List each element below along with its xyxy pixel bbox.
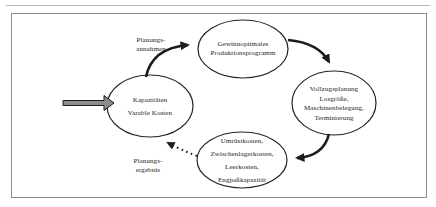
node-line: Leerkosten, xyxy=(210,161,273,174)
node-line: Maschinenbelegung, xyxy=(304,104,364,114)
node-vollzugsplanung-label: Vollzugsplanung Losgröße, Maschinenbeleg… xyxy=(304,85,364,123)
edge-label-line: Planungs- xyxy=(136,36,166,45)
edge-label-line: ergebnis xyxy=(134,166,163,175)
node-line: Produktionsprogramm xyxy=(211,49,276,58)
arrow-programm-to-vollzugsplanung xyxy=(288,40,329,62)
node-line: Kapazitäten xyxy=(128,94,172,107)
node-kosten-label: Umrüstkosten, Zwischenlagerkosten, Leerk… xyxy=(210,135,273,187)
diagram-canvas: Kapazitäten Varable Kosten Gewinnoptimal… xyxy=(0,0,436,207)
node-line: Zwischenlagerkosten, xyxy=(210,148,273,161)
node-line: Umrüstkosten, xyxy=(210,135,273,148)
node-produktionsprogramm-label: Gewinnoptimales Produktionsprogramm xyxy=(211,40,276,58)
node-line: Gewinnoptimales xyxy=(211,40,276,49)
edge-label-line: Planungs- xyxy=(134,157,163,166)
node-line: Varable Kosten xyxy=(128,107,172,120)
node-line: Terminierung xyxy=(304,114,364,124)
node-line: Vollzugsplanung xyxy=(304,85,364,95)
node-kapazitaeten-label: Kapazitäten Varable Kosten xyxy=(128,94,172,120)
arrow-vollzugsplanung-to-kosten xyxy=(297,134,329,158)
edge-label-planungsannahmen: Planungs- annahmen xyxy=(136,36,166,54)
edge-label-line: annahmen xyxy=(136,45,166,54)
node-line: Engpaßkapazität xyxy=(210,174,273,187)
edge-label-planungsergebnis: Planungs- ergebnis xyxy=(134,157,163,175)
node-line: Losgröße, xyxy=(304,95,364,105)
arrow-planungsergebnis-dotted xyxy=(168,143,197,156)
input-block-arrow xyxy=(63,96,114,111)
